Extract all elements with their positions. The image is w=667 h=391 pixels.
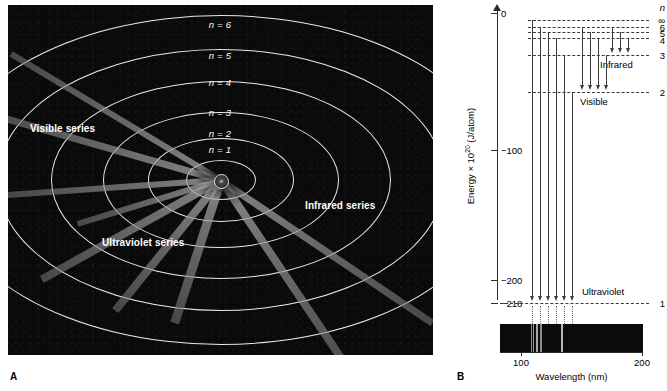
panel-b-letter: B (457, 371, 464, 382)
transition-line-infrared (620, 32, 621, 48)
nucleus-electron: e (214, 174, 229, 189)
orbit-label-n3: n = 3 (209, 107, 231, 118)
level-line-4 (528, 38, 649, 39)
projection-line (556, 306, 557, 324)
level-label-2: 2 (660, 87, 665, 98)
emission-line (561, 324, 563, 352)
emission-line (536, 324, 538, 352)
transition-arrow-visible (604, 85, 608, 90)
level-line-3 (528, 55, 649, 56)
transition-arrow-visible (588, 85, 592, 90)
transition-line-infrared (628, 38, 629, 48)
wavelength-tick-label: 200 (634, 357, 650, 368)
transition-line-ultraviolet (556, 38, 557, 296)
series-label-visible: Visible (580, 96, 608, 107)
orbit-label-n1: n = 1 (209, 144, 231, 155)
projection-line (564, 306, 565, 324)
level-line-1 (500, 303, 649, 304)
level-line-6 (528, 27, 649, 28)
y-tick-label: −100 (501, 145, 522, 156)
series-label-infrared: Infrared (600, 59, 633, 70)
y-tick-label: −200 (501, 275, 522, 286)
n-column-header: n (660, 2, 665, 13)
transition-line-visible (590, 32, 591, 85)
transition-line-ultraviolet (540, 27, 541, 296)
projection-line (532, 306, 533, 324)
transition-arrow-visible (596, 85, 600, 90)
orbit-label-n4: n = 4 (209, 77, 231, 88)
emission-line (540, 324, 542, 352)
level-line-2 (528, 92, 649, 93)
level-label-4: 4 (660, 35, 665, 46)
wavelength-tick (642, 352, 643, 356)
transition-arrow-ultraviolet (538, 296, 542, 301)
transition-line-ultraviolet (532, 20, 533, 296)
level-label-1: 1 (660, 298, 665, 309)
transition-line-visible (606, 55, 607, 85)
transition-arrow-ultraviolet (562, 296, 566, 301)
transition-arrow-infrared (618, 48, 622, 53)
transition-line-ultraviolet (572, 92, 573, 296)
transition-arrow-ultraviolet (554, 296, 558, 301)
orbit-label-n2: n = 2 (209, 128, 231, 139)
electron-label: e (215, 178, 228, 184)
y-axis-line (497, 10, 498, 300)
transition-line-visible (582, 27, 583, 85)
wavelength-tick (521, 352, 522, 356)
projection-line (548, 306, 549, 324)
series-label-infrared: Infrared series (305, 200, 375, 211)
energy-level-diagram: Energy × 1020 (J/atom) 0 −100 −200 −218 … (440, 0, 667, 391)
level-label-3: 3 (660, 50, 665, 61)
level-line-inf (528, 20, 649, 21)
emission-spectrum-strip (500, 324, 643, 352)
series-label-visible: Visible series (30, 123, 95, 134)
transition-arrow-infrared (610, 48, 614, 53)
orbit-label-n5: n = 5 (209, 50, 231, 61)
transition-arrow-ultraviolet (530, 296, 534, 301)
y-tick (491, 13, 498, 14)
transition-arrow-ultraviolet (570, 296, 574, 301)
transition-line-ultraviolet (548, 32, 549, 296)
transition-line-ultraviolet (564, 55, 565, 296)
panel-a-letter: A (10, 371, 17, 382)
y-axis-title: Energy × 1020 (J/atom) (464, 76, 476, 236)
level-line-5 (528, 32, 649, 33)
transition-arrow-infrared (626, 48, 630, 53)
y-tick-label: 0 (501, 8, 506, 19)
y-tick (491, 280, 498, 281)
wavelength-axis-title: Wavelength (nm) (500, 371, 643, 382)
projection-line (540, 306, 541, 324)
y-tick (491, 150, 498, 151)
wavelength-tick-label: 100 (513, 357, 529, 368)
series-label-ultraviolet: Ultraviolet series (102, 237, 184, 248)
transition-arrow-ultraviolet (546, 296, 550, 301)
projection-line (572, 306, 573, 324)
series-label-ultraviolet: Ultraviolet (582, 286, 624, 297)
transition-arrow-visible (580, 85, 584, 90)
bohr-orbit-diagram: n = 6 n = 5 n = 4 n = 3 n = 2 n = 1 e Vi… (8, 5, 433, 355)
transition-line-infrared (612, 27, 613, 48)
transition-line-visible (598, 38, 599, 85)
orbit-label-n6: n = 6 (209, 19, 231, 30)
emission-line (533, 324, 534, 352)
y-tick (491, 303, 498, 304)
